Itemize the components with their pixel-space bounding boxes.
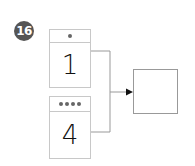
arrow-head-icon xyxy=(126,89,133,96)
answer-box[interactable] xyxy=(133,69,178,114)
bracket-line xyxy=(91,51,110,132)
